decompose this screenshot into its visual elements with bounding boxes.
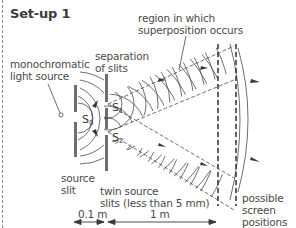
diagram-drawing: S0 S1 S2 [0,0,296,228]
screen-positions [218,44,236,206]
dimension-arrows [74,220,216,225]
pointer-light-source [48,84,60,113]
label-s2: S2 [112,131,123,145]
interference-wavefronts [0,0,230,228]
outer-arcs [230,44,248,200]
diagram-frame: Set-up 1 monochromatic light source sepa… [0,0,296,228]
light-source-dot [59,113,63,117]
source-slit-barrier-top [74,85,77,112]
twin-slit-barrier-top [105,74,108,102]
source-slit-barrier-bottom [74,122,77,157]
direction-arrows [158,66,260,166]
twin-slit-barrier-bottom [105,135,108,171]
label-s0: S0 [82,113,93,127]
fan-boundaries [108,46,234,210]
